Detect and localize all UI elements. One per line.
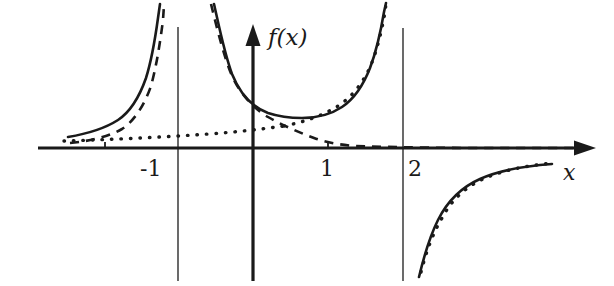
coordinate-axes: [38, 24, 596, 281]
dotted-curve-right-branch: [421, 163, 552, 272]
dashed-curve-middle-branch: [211, 4, 576, 148]
dashed-curve-left-branch: [70, 5, 164, 143]
solid-curve-right-branch: [419, 164, 552, 277]
x-axis-arrowhead: [574, 141, 596, 156]
x-axis-label: x: [563, 160, 575, 185]
y-axis-label: f(x): [268, 24, 307, 50]
solid-curve-middle-branch: [214, 3, 386, 118]
dotted-curve-left-tail: [64, 126, 284, 141]
x-tick-label-one: 1: [320, 156, 334, 181]
function-plot-figure: f(x) x -1 1 2: [0, 0, 614, 286]
vertical-asymptotes: [178, 27, 403, 281]
x-tick-label-neg-one: -1: [140, 156, 161, 181]
solid-curve-group: [68, 3, 552, 277]
dotted-curve-group: [64, 4, 552, 272]
solid-curve-left-branch: [68, 4, 160, 137]
x-tick-label-two: 2: [408, 156, 422, 181]
y-axis-arrowhead: [246, 24, 261, 46]
